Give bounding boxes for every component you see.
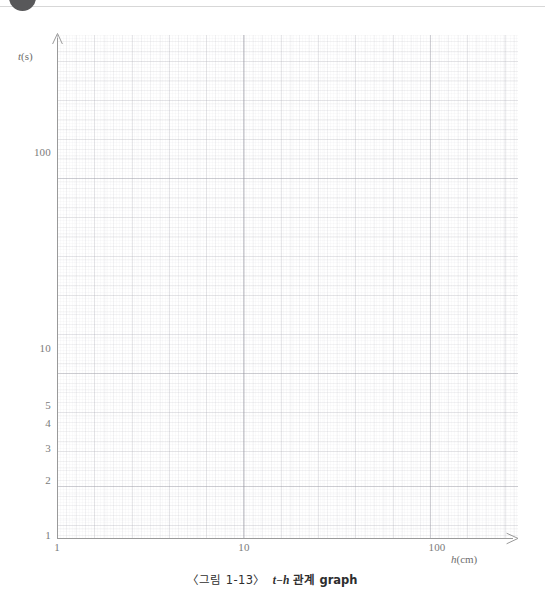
x-axis-unit: (cm) [457,553,478,565]
y-tick-label-1: 1 [17,529,51,541]
y-axis-line [57,38,58,538]
x-tick-label-10: 10 [224,541,264,553]
y-tick-label-100: 100 [17,146,51,158]
y-tick-label-10: 10 [17,342,51,354]
figure-caption: 〈그림 1-13〉 t−h 관계 graph [0,571,545,587]
plot-area [57,35,518,538]
figure-t-h-graph: t(s) h(cm) 100 10 5 4 3 2 1 1 10 100 [0,0,545,599]
y-axis-title: t(s) [18,50,33,62]
y-tick-label-4: 4 [17,417,51,429]
y-axis-unit: (s) [21,50,33,62]
figure-caption-variables: t−h [273,574,290,586]
grid-lines-major [57,35,518,538]
y-axis-arrow-icon [51,33,64,45]
y-tick-label-3: 3 [17,442,51,454]
y-tick-label-5: 5 [17,399,51,411]
figure-number: 〈그림 1-13〉 [187,573,264,587]
x-axis-arrow-icon [506,532,519,545]
x-axis-line [57,538,513,539]
y-tick-label-2: 2 [17,474,51,486]
x-axis-title: h(cm) [451,553,477,565]
figure-caption-text: 관계 graph [293,573,357,587]
x-tick-label-100: 100 [417,541,457,553]
x-tick-label-1: 1 [37,541,77,553]
